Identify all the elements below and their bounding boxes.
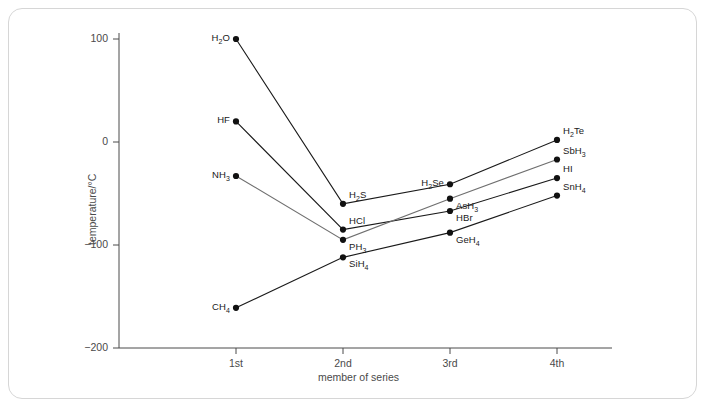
data-point (554, 192, 560, 198)
data-point (233, 118, 239, 124)
point-label: HCl (349, 215, 365, 226)
data-point (340, 254, 346, 260)
data-point (340, 201, 346, 207)
data-point (447, 230, 453, 236)
series-line (236, 121, 557, 229)
series-points (233, 36, 560, 311)
x-axis-title: member of series (6, 371, 705, 383)
point-label: NH3 (140, 169, 230, 182)
data-point (233, 36, 239, 42)
data-point (554, 175, 560, 181)
point-label: PH3 (349, 241, 366, 254)
data-point (447, 196, 453, 202)
data-point (554, 137, 560, 143)
point-label: SbH3 (563, 145, 586, 158)
x-tick-label: 4th (527, 357, 587, 369)
point-label: HF (140, 114, 230, 125)
x-tick-label: 3rd (420, 357, 480, 369)
y-axis-ticks (113, 39, 119, 348)
x-tick-label: 1st (206, 357, 266, 369)
data-point (554, 156, 560, 162)
y-tick-label: −100 (60, 238, 108, 250)
point-label: SiH4 (349, 258, 369, 271)
data-point (340, 237, 346, 243)
point-label: H2S (349, 189, 366, 202)
point-label: AsH3 (456, 200, 478, 213)
x-tick-label: 2nd (313, 357, 373, 369)
series-line (236, 160, 557, 240)
y-tick-label: −200 (60, 341, 108, 353)
data-point (340, 226, 346, 232)
point-label: H2Se (354, 177, 444, 190)
point-label: CH4 (140, 301, 230, 314)
data-point (447, 208, 453, 214)
point-label: H2Te (563, 125, 584, 138)
series-lines (236, 39, 557, 308)
y-tick-label: 100 (60, 32, 108, 44)
point-label: HI (563, 163, 573, 174)
data-point (233, 305, 239, 311)
point-label: GeH4 (456, 234, 480, 247)
series-line (236, 196, 557, 308)
data-point (233, 173, 239, 179)
point-label: HBr (456, 212, 473, 223)
y-axis-title: temperature/°C (86, 174, 98, 245)
x-axis-ticks (236, 348, 557, 354)
data-point (447, 181, 453, 187)
y-tick-label: 0 (60, 135, 108, 147)
point-label: H2O (140, 32, 230, 45)
point-label: SnH4 (563, 181, 586, 194)
